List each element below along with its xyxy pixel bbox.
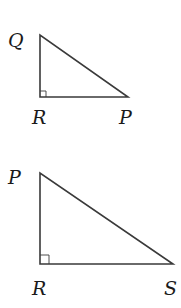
- vertex-label-r: R: [31, 106, 46, 128]
- triangle-qrp: Q R P: [8, 29, 133, 128]
- vertex-label-q: Q: [8, 29, 24, 51]
- triangle-prs-outline: [40, 173, 173, 264]
- vertex-label-r: R: [31, 277, 46, 299]
- vertex-label-p: P: [7, 166, 22, 188]
- triangle-qrp-outline: [40, 35, 128, 97]
- vertex-label-s: S: [164, 277, 177, 299]
- triangle-prs: P R S: [7, 166, 177, 299]
- right-angle-marker: [40, 255, 49, 264]
- triangles-diagram: Q R P P R S: [0, 0, 181, 308]
- right-angle-marker: [40, 91, 46, 97]
- vertex-label-p: P: [118, 106, 133, 128]
